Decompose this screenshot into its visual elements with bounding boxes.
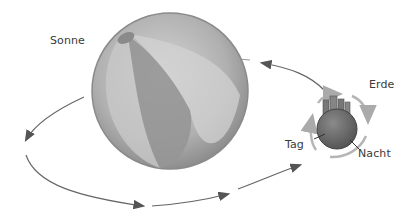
sun-earth-diagram: Sonne Erde Tag Nacht xyxy=(0,0,415,221)
sun-ball xyxy=(92,13,248,169)
day-label: Tag xyxy=(285,138,304,151)
sun-label: Sonne xyxy=(50,34,85,47)
earth-label: Erde xyxy=(369,78,394,91)
night-label: Nacht xyxy=(358,147,391,160)
